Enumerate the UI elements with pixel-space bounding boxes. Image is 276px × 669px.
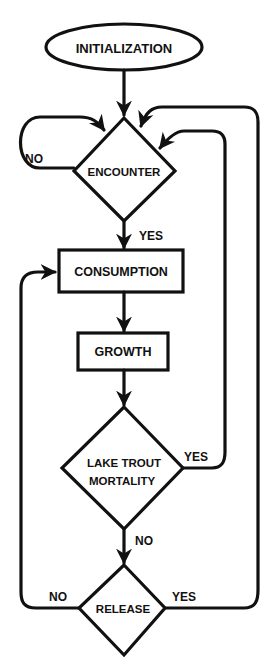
edge-mortality-yes-to-encounter [160, 131, 225, 468]
release-no-label: NO [49, 590, 67, 604]
growth-label: GROWTH [95, 345, 152, 359]
mortality-label-line1: LAKE TROUT [87, 457, 161, 469]
initialization-label: INITIALIZATION [76, 41, 173, 56]
edge-release-no-to-consumption [21, 272, 79, 608]
mortality-label-line2: MORTALITY [89, 475, 156, 487]
release-label: RELEASE [96, 603, 151, 615]
node-growth: GROWTH [78, 333, 168, 370]
encounter-no-label: NO [25, 152, 43, 166]
release-yes-label: YES [172, 590, 196, 604]
node-encounter: ENCOUNTER [74, 118, 175, 221]
encounter-yes-label: YES [139, 229, 163, 243]
node-lake-trout-mortality: LAKE TROUT MORTALITY [62, 407, 183, 529]
node-consumption: CONSUMPTION [59, 250, 183, 292]
flowchart: INITIALIZATION NO ENCOUNTER YES CONSUMPT… [0, 0, 276, 669]
node-release: RELEASE [79, 565, 165, 655]
node-initialization: INITIALIZATION [46, 24, 202, 70]
consumption-label: CONSUMPTION [74, 265, 168, 279]
mortality-no-label: NO [135, 534, 153, 548]
encounter-label: ENCOUNTER [88, 166, 162, 178]
mortality-yes-label: YES [184, 450, 208, 464]
